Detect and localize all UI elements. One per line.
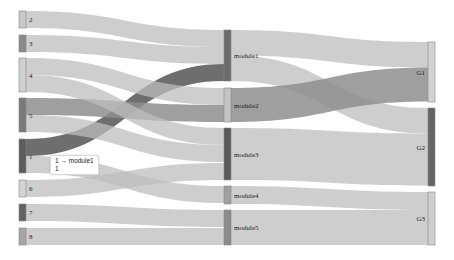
tooltip-link-value: 1: [55, 165, 94, 173]
node-label-module4: module4: [234, 192, 259, 200]
link-8-module5[interactable]: [26, 228, 224, 245]
link-7-module5[interactable]: [26, 204, 224, 227]
node-1[interactable]: [19, 139, 26, 173]
link-tooltip: 1 → module1 1: [50, 155, 99, 175]
node-3[interactable]: [19, 35, 26, 52]
node-G1[interactable]: [428, 42, 435, 102]
node-label-8: 8: [29, 233, 33, 241]
node-label-module5: module5: [234, 224, 259, 232]
node-2[interactable]: [19, 11, 26, 28]
link-module3-G2[interactable]: [231, 128, 428, 186]
link-module4-G3[interactable]: [231, 186, 428, 210]
node-label-2: 2: [29, 16, 33, 24]
node-module2[interactable]: [224, 88, 231, 122]
node-label-G1: G1: [416, 69, 425, 77]
node-6[interactable]: [19, 180, 26, 197]
node-module3[interactable]: [224, 128, 231, 180]
node-label-4: 4: [29, 72, 33, 80]
node-label-module2: module2: [234, 102, 259, 110]
node-label-G2: G2: [416, 144, 425, 152]
node-label-module1: module1: [234, 52, 259, 60]
tooltip-link-name: 1 → module1: [55, 157, 94, 165]
node-8[interactable]: [19, 228, 26, 245]
node-label-5: 5: [29, 112, 33, 120]
node-module5[interactable]: [224, 210, 231, 245]
node-4[interactable]: [19, 58, 26, 92]
node-5[interactable]: [19, 98, 26, 132]
node-label-7: 7: [29, 209, 33, 217]
node-label-module3: module3: [234, 151, 259, 159]
link-module5-G3[interactable]: [231, 210, 428, 245]
node-label-G3: G3: [416, 215, 425, 223]
node-G3[interactable]: [428, 192, 435, 245]
sankey-diagram: 23451678module1module2module3module4modu…: [0, 0, 454, 260]
node-label-3: 3: [29, 40, 33, 48]
node-label-6: 6: [29, 185, 33, 193]
node-module1[interactable]: [224, 30, 231, 81]
node-module4[interactable]: [224, 186, 231, 204]
node-label-1: 1: [29, 153, 33, 161]
node-G2[interactable]: [428, 108, 435, 186]
node-7[interactable]: [19, 204, 26, 221]
